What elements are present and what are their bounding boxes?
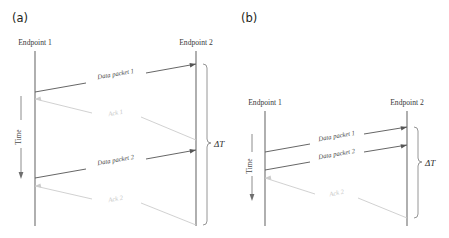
panel-b-msg-data-1-label: Data packet 1 <box>317 129 356 142</box>
panel-b-delta-t-label: ΔT <box>424 158 436 168</box>
panel-b-msg-data-2-seg2 <box>364 145 407 152</box>
panel-a-msg-ack-1-seg2 <box>35 99 92 113</box>
panel-b-msg-ack-2-seg1 <box>358 198 407 218</box>
panel-a-msg-ack-2-label: Ack 2 <box>107 194 125 204</box>
panel-a-time-label: Time <box>15 130 23 145</box>
panel-b-tag: (b) <box>241 11 257 25</box>
panel-b-msg-data-1-seg2 <box>364 127 407 134</box>
panel-a-msg-data-1-arrowhead <box>190 63 197 67</box>
panel-b-msg-data-1-seg1 <box>265 144 310 152</box>
panel-a-delta-t-label: ΔT <box>213 139 225 149</box>
panel-a-tag: (a) <box>12 11 28 25</box>
panel-a-msg-data-1-seg1 <box>35 83 86 92</box>
panel-a-msg-ack-1-label: Ack 1 <box>107 108 124 118</box>
panel-a: (a) Endpoint 1 Endpoint 2 Time Data pack… <box>12 11 225 226</box>
panel-a-msg-ack-1-seg1 <box>141 117 196 140</box>
panel-a-endpoint-left-label: Endpoint 1 <box>18 38 52 47</box>
panel-a-time-arrowhead <box>19 172 24 179</box>
panel-a-msg-data-1-seg2 <box>146 64 196 73</box>
panel-b-delta-t-bracket <box>414 127 422 218</box>
panel-b-endpoint-right-label: Endpoint 2 <box>390 98 424 107</box>
panel-b-endpoint-left-label: Endpoint 1 <box>248 98 282 107</box>
panel-a-delta-t-bracket <box>203 64 211 225</box>
panel-b-time-label: Time <box>246 159 254 174</box>
panel-a-msg-data-1-label: Data packet 1 <box>96 67 135 80</box>
panel-a-msg-ack-2-seg1 <box>141 203 196 225</box>
panel-a-msg-ack-2-seg2 <box>35 186 92 199</box>
sequence-diagram-figure: (a) Endpoint 1 Endpoint 2 Time Data pack… <box>0 0 449 238</box>
panel-b-msg-ack-2-label: Ack 2 <box>328 188 346 198</box>
panel-a-endpoint-right-label: Endpoint 2 <box>179 38 213 47</box>
panel-b-msg-data-2-label: Data packet 2 <box>317 147 356 160</box>
panel-b-msg-ack-2-seg2 <box>265 178 315 194</box>
panel-a-msg-data-2-label: Data packet 2 <box>96 153 135 167</box>
panel-a-msg-data-2-seg1 <box>35 169 86 178</box>
panel-b-time-arrowhead <box>250 194 255 201</box>
panel-a-msg-data-2-arrowhead <box>190 149 197 153</box>
panel-b-msg-data-2-seg1 <box>265 162 310 170</box>
panel-b: (b) Endpoint 1 Endpoint 2 Time Data pack… <box>241 11 436 226</box>
panel-a-msg-data-2-seg2 <box>146 150 196 159</box>
